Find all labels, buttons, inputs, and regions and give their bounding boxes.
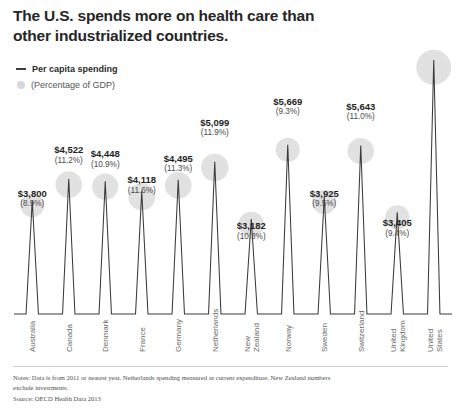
category-label-sweden: Sweden	[320, 323, 329, 352]
value-label-percent: (11.6%)	[113, 186, 171, 196]
value-label: $4,448(10.9%)	[76, 149, 134, 169]
value-label-amount: $4,448	[76, 149, 134, 160]
value-label: $4,118(11.6%)	[113, 175, 171, 195]
category-label-line: States	[435, 329, 444, 352]
value-label: $4,495(11.3%)	[149, 154, 207, 174]
category-label-germany: Germany	[174, 319, 183, 352]
value-label-amount: $3,800	[3, 189, 61, 200]
chart-page: The U.S. spends more on health care than…	[0, 0, 461, 410]
footer-divider	[13, 366, 448, 367]
value-label: $5,099(11.9%)	[186, 118, 244, 138]
category-label-line: Australia	[28, 321, 37, 352]
category-label-line: Sweden	[320, 323, 329, 352]
gdp-bubbles-group	[20, 50, 451, 237]
value-label: $5,643(11.0%)	[332, 102, 390, 122]
value-label-amount: $5,099	[186, 118, 244, 129]
category-label-line: Norway	[284, 325, 293, 352]
category-label-switzerland: Switzerland	[357, 311, 366, 352]
value-label-amount: $5,669	[259, 97, 317, 108]
category-label-united-states: UnitedStates	[426, 329, 445, 352]
peak-chart	[0, 4, 461, 356]
value-label-amount: $3,405	[368, 218, 426, 229]
category-label-line: France	[138, 327, 147, 352]
category-label-line: Switzerland	[357, 311, 366, 352]
category-label-line: Denmark	[101, 320, 110, 352]
footer-notes: Notes: Data is from 2011 or nearest year…	[13, 373, 343, 393]
value-label-amount: $3,925	[295, 189, 353, 200]
category-label-denmark: Denmark	[101, 320, 110, 352]
footer-source: Source: OECD Health Data 2013	[13, 395, 101, 402]
value-label: $3,925(9.5%)	[295, 189, 353, 209]
value-label-percent: (9.3%)	[259, 107, 317, 117]
value-label-percent: (11.0%)	[332, 112, 390, 122]
chart-svg	[0, 4, 461, 356]
category-label-line: Kingdom	[399, 320, 408, 352]
value-label-percent: (9.4%)	[368, 229, 426, 239]
category-label-line: Netherlands	[211, 309, 220, 352]
category-label-line: New	[243, 323, 252, 352]
value-label-percent: (11.3%)	[149, 164, 207, 174]
category-label-new-zealand: NewZealand	[243, 323, 262, 352]
value-label-amount: $4,118	[113, 175, 171, 186]
category-label-line: United	[389, 320, 398, 352]
value-label-amount: $5,643	[332, 102, 390, 113]
category-label-netherlands: Netherlands	[211, 309, 220, 352]
value-label-percent: (10.3%)	[222, 232, 280, 242]
category-label-australia: Australia	[28, 321, 37, 352]
value-label-percent: (8.9%)	[3, 199, 61, 209]
value-label: $3,405(9.4%)	[368, 218, 426, 238]
category-label-line: Germany	[174, 319, 183, 352]
category-label-line: Canada	[65, 324, 74, 352]
value-label-amount: $4,495	[149, 154, 207, 165]
category-label-line: Zealand	[253, 323, 262, 352]
value-label: $3,182(10.3%)	[222, 221, 280, 241]
value-label-percent: (9.5%)	[295, 199, 353, 209]
value-label: $3,800(8.9%)	[3, 189, 61, 209]
category-label-norway: Norway	[284, 325, 293, 352]
category-label-canada: Canada	[65, 324, 74, 352]
value-label-amount: $3,182	[222, 221, 280, 232]
category-label-united-kingdom: UnitedKingdom	[389, 320, 408, 352]
value-label-percent: (10.9%)	[76, 160, 134, 170]
category-label-france: France	[138, 327, 147, 352]
value-label: $5,669(9.3%)	[259, 97, 317, 117]
category-label-line: United	[426, 329, 435, 352]
value-label-percent: (11.9%)	[186, 128, 244, 138]
